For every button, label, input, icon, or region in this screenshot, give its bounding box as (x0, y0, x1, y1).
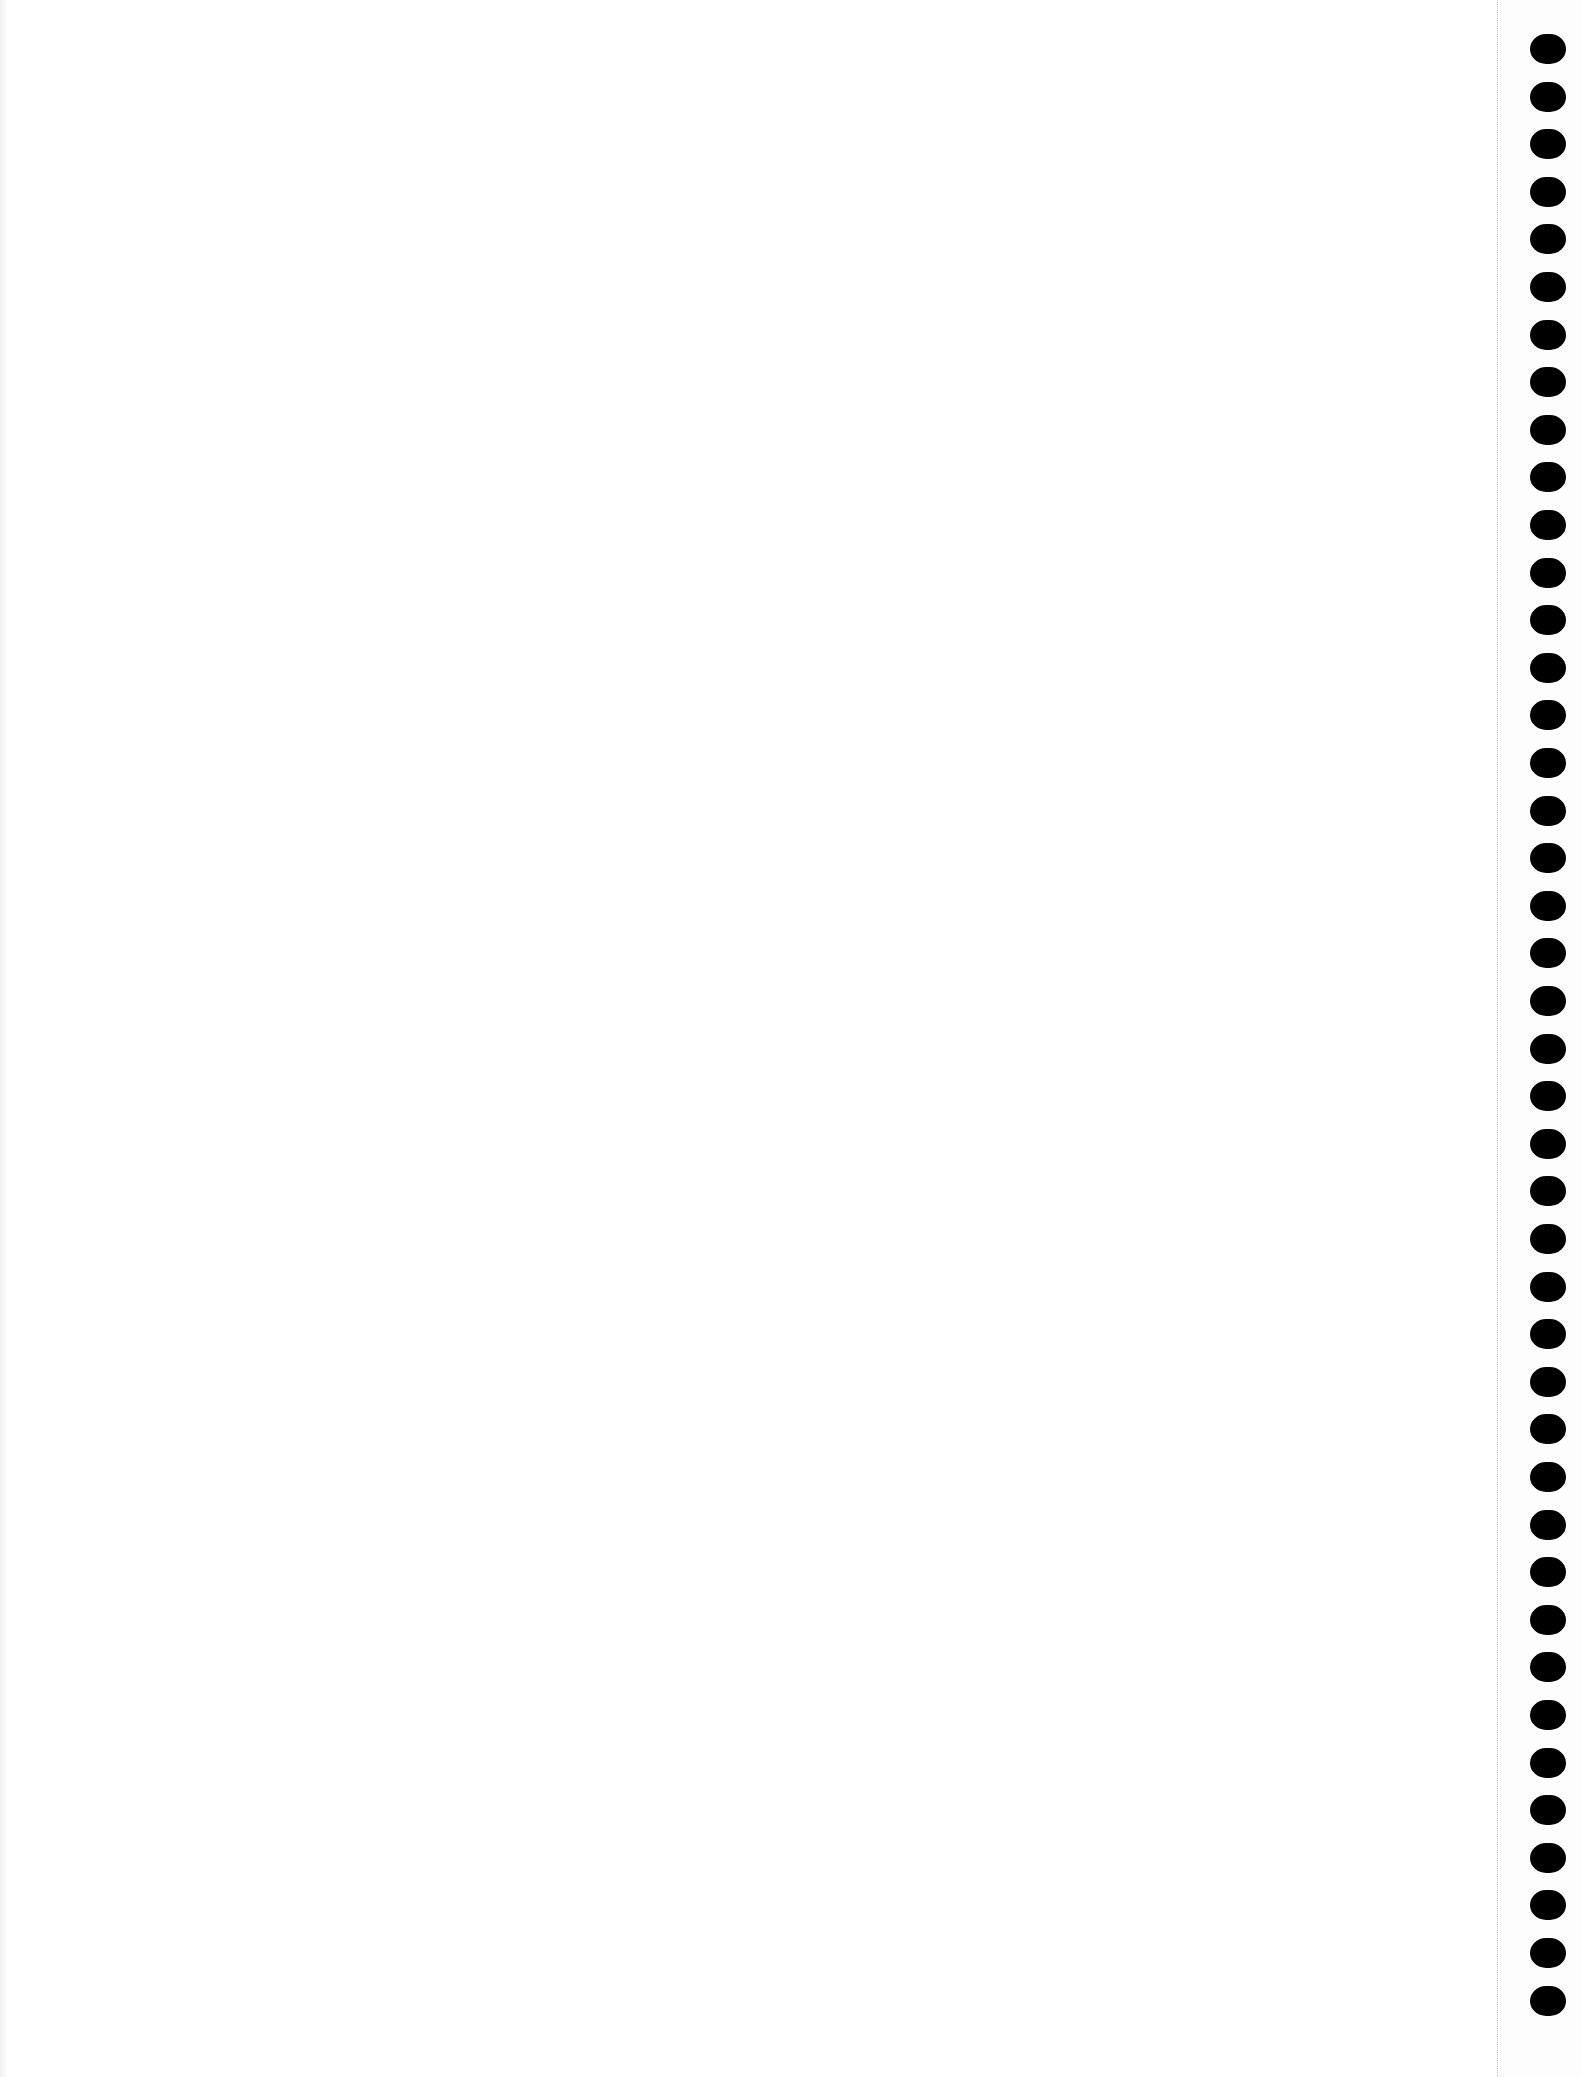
binding-hole-icon (1530, 462, 1566, 492)
perforation-line (1497, 0, 1498, 2077)
binding-hole-icon (1530, 1510, 1566, 1540)
binding-hole-icon (1530, 367, 1566, 397)
binding-hole-icon (1530, 843, 1566, 873)
binding-hole-icon (1530, 34, 1566, 64)
page-left-edge (0, 0, 8, 2077)
binding-hole-icon (1530, 558, 1566, 588)
binding-hole-icon (1530, 1843, 1566, 1873)
binding-hole-icon (1530, 891, 1566, 921)
binding-hole-icon (1530, 1890, 1566, 1920)
binding-hole-icon (1530, 1176, 1566, 1206)
binding-hole-icon (1530, 605, 1566, 635)
binding-hole-icon (1530, 938, 1566, 968)
binding-hole-icon (1530, 1652, 1566, 1682)
binding-hole-icon (1530, 1605, 1566, 1635)
binding-hole-icon (1530, 1938, 1566, 1968)
binding-hole-icon (1530, 82, 1566, 112)
binding-hole-icon (1530, 1462, 1566, 1492)
binding-hole-icon (1530, 320, 1566, 350)
binding-hole-icon (1530, 1034, 1566, 1064)
binding-hole-icon (1530, 1129, 1566, 1159)
binding-hole-icon (1530, 1986, 1566, 2016)
binding-hole-icon (1530, 986, 1566, 1016)
binding-hole-icon (1530, 653, 1566, 683)
binding-hole-icon (1530, 177, 1566, 207)
binding-hole-icon (1530, 1795, 1566, 1825)
binding-hole-icon (1530, 1557, 1566, 1587)
binding-holes (1530, 0, 1570, 2077)
binding-hole-icon (1530, 1367, 1566, 1397)
binding-hole-icon (1530, 796, 1566, 826)
binding-hole-icon (1530, 1700, 1566, 1730)
binding-hole-icon (1530, 1748, 1566, 1778)
binding-hole-icon (1530, 129, 1566, 159)
binding-hole-icon (1530, 272, 1566, 302)
binding-hole-icon (1530, 1414, 1566, 1444)
binding-hole-icon (1530, 1224, 1566, 1254)
blank-page (0, 0, 1581, 2077)
binding-hole-icon (1530, 224, 1566, 254)
binding-hole-icon (1530, 1081, 1566, 1111)
binding-hole-icon (1530, 748, 1566, 778)
binding-hole-icon (1530, 1319, 1566, 1349)
binding-hole-icon (1530, 700, 1566, 730)
binding-hole-icon (1530, 510, 1566, 540)
binding-hole-icon (1530, 1272, 1566, 1302)
binding-hole-icon (1530, 415, 1566, 445)
